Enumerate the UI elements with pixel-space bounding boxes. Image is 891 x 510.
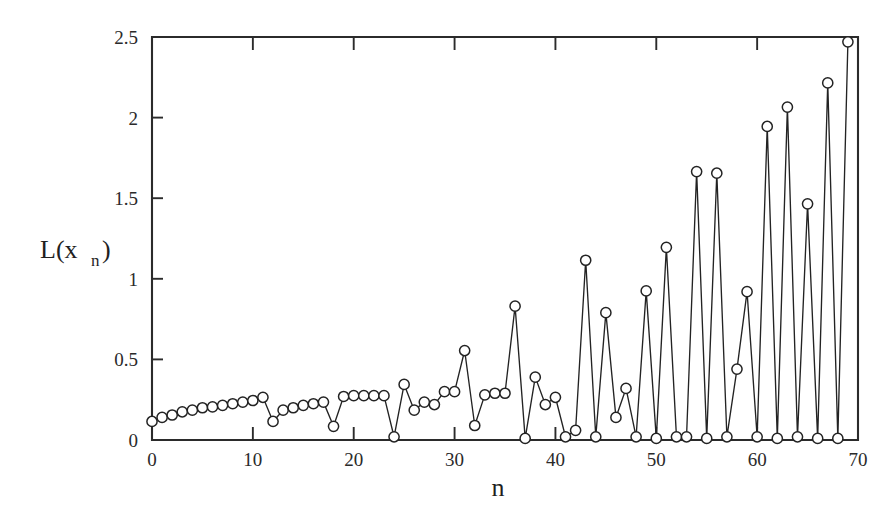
- y-tick-label-2: 2: [129, 108, 139, 129]
- data-point: [762, 121, 772, 131]
- data-point: [792, 432, 802, 442]
- x-tick-label-40: 40: [546, 449, 565, 470]
- data-point: [480, 390, 490, 400]
- data-point: [813, 433, 823, 443]
- y-tick-label-0.5: 0.5: [114, 349, 138, 370]
- data-point: [712, 168, 722, 178]
- data-series-line: [152, 42, 848, 439]
- y-axis-title-main: L(x: [40, 235, 78, 264]
- data-point: [490, 388, 500, 398]
- data-point: [520, 433, 530, 443]
- data-point: [379, 391, 389, 401]
- data-point: [510, 301, 520, 311]
- data-point: [288, 403, 298, 413]
- data-point: [702, 433, 712, 443]
- data-point: [349, 391, 359, 401]
- data-point: [429, 399, 439, 409]
- data-point: [550, 392, 560, 402]
- data-point: [409, 405, 419, 415]
- y-tick-label-1.5: 1.5: [114, 188, 138, 209]
- y-axis-title: L(x n ): [40, 235, 111, 270]
- data-point: [611, 412, 621, 422]
- data-point: [218, 400, 228, 410]
- y-axis-tick-labels: 00.511.522.5: [114, 27, 138, 451]
- figure-container: 00.511.522.5 010203040506070 L(x n ) n: [0, 0, 891, 510]
- y-tick-label-2.5: 2.5: [114, 27, 138, 48]
- x-axis-tick-labels: 010203040506070: [147, 449, 867, 470]
- data-point: [228, 399, 238, 409]
- x-tick-label-0: 0: [147, 449, 157, 470]
- data-point: [631, 432, 641, 442]
- data-point: [339, 391, 349, 401]
- x-tick-label-60: 60: [748, 449, 767, 470]
- data-point: [268, 416, 278, 426]
- data-point: [752, 432, 762, 442]
- data-point: [843, 37, 853, 47]
- x-tick-label-20: 20: [344, 449, 363, 470]
- data-point: [742, 287, 752, 297]
- y-axis-ticks: [152, 118, 163, 360]
- x-axis-ticks: [253, 37, 757, 440]
- data-point: [681, 432, 691, 442]
- data-point: [661, 242, 671, 252]
- data-point: [833, 433, 843, 443]
- data-point: [258, 392, 268, 402]
- data-point: [571, 425, 581, 435]
- data-point: [601, 308, 611, 318]
- data-point: [278, 405, 288, 415]
- x-tick-label-70: 70: [849, 449, 868, 470]
- plot-frame: [152, 37, 858, 440]
- x-tick-label-10: 10: [243, 449, 262, 470]
- data-point: [500, 388, 510, 398]
- data-point: [591, 432, 601, 442]
- data-point: [460, 345, 470, 355]
- data-point: [197, 403, 207, 413]
- lyapunov-chart: 00.511.522.5 010203040506070 L(x n ) n: [0, 0, 891, 510]
- data-point: [318, 397, 328, 407]
- data-point: [419, 397, 429, 407]
- data-point: [157, 412, 167, 422]
- data-point: [540, 399, 550, 409]
- data-point: [782, 102, 792, 112]
- data-point: [187, 405, 197, 415]
- data-point: [449, 387, 459, 397]
- data-point: [823, 78, 833, 88]
- y-tick-label-1: 1: [129, 269, 139, 290]
- data-point: [560, 432, 570, 442]
- data-point: [248, 395, 258, 405]
- data-point: [389, 432, 399, 442]
- x-axis-title: n: [492, 473, 505, 502]
- data-point: [167, 410, 177, 420]
- data-point: [671, 432, 681, 442]
- data-point: [207, 402, 217, 412]
- data-point: [621, 383, 631, 393]
- data-point: [641, 286, 651, 296]
- data-point: [692, 167, 702, 177]
- data-point: [308, 399, 318, 409]
- data-point: [328, 421, 338, 431]
- data-point: [722, 432, 732, 442]
- x-tick-label-30: 30: [445, 449, 464, 470]
- data-point: [369, 391, 379, 401]
- data-point: [177, 407, 187, 417]
- y-axis-title-close: ): [102, 235, 111, 264]
- data-point: [802, 199, 812, 209]
- data-point: [298, 400, 308, 410]
- y-tick-label-0: 0: [129, 430, 139, 451]
- data-point: [147, 416, 157, 426]
- data-point: [238, 397, 248, 407]
- data-point: [772, 433, 782, 443]
- data-point: [359, 391, 369, 401]
- x-tick-label-50: 50: [647, 449, 666, 470]
- y-axis-title-subscript: n: [91, 251, 100, 270]
- data-point: [732, 364, 742, 374]
- data-point: [530, 372, 540, 382]
- data-point: [470, 420, 480, 430]
- data-series-markers: [147, 37, 853, 444]
- data-point: [581, 255, 591, 265]
- data-point: [651, 433, 661, 443]
- data-point: [439, 387, 449, 397]
- data-point: [399, 379, 409, 389]
